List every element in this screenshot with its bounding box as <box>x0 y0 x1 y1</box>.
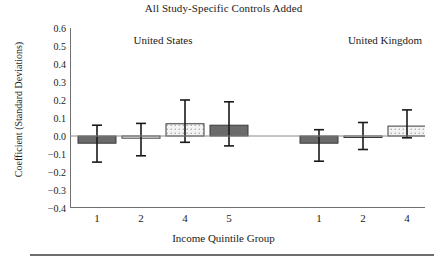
y-axis-label: Coefficient (Standard Deviations) <box>13 30 24 190</box>
chart-svg <box>70 28 425 208</box>
y-tick-label: −0.4 <box>48 203 66 214</box>
y-tick-label: −0.3 <box>48 185 66 196</box>
y-tick-label: −0.2 <box>48 167 66 178</box>
x-tick-label: 2 <box>360 212 366 224</box>
y-tick-label: 0.1 <box>54 113 67 124</box>
error-bar <box>136 123 146 155</box>
error-bar <box>314 130 324 162</box>
y-tick-label: 0.4 <box>54 59 67 70</box>
chart-title: All Study-Specific Controls Added <box>0 2 447 14</box>
x-tick-label: 5 <box>226 212 232 224</box>
x-tick-label: 1 <box>94 212 100 224</box>
plot-area <box>70 28 425 208</box>
x-tick-label: 4 <box>182 212 188 224</box>
group-label-united-kingdom: United Kingdom <box>348 34 422 46</box>
group-label-united-states: United States <box>134 34 193 46</box>
y-tick-label: −0.1 <box>48 149 66 160</box>
x-axis-label: Income Quintile Group <box>0 232 447 244</box>
y-tick-label: 0.5 <box>54 41 67 52</box>
y-tick-label: 0.3 <box>54 77 67 88</box>
x-tick-label: 1 <box>316 212 322 224</box>
y-tick-label: 0.0 <box>54 131 67 142</box>
y-axis-tick-labels: 0.60.50.40.30.20.10.0−0.1−0.2−0.3−0.4 <box>30 28 66 208</box>
x-tick-label: 4 <box>404 212 410 224</box>
axis-lines <box>70 28 425 208</box>
error-bar <box>224 102 234 146</box>
bottom-divider <box>30 254 434 256</box>
x-tick-label: 2 <box>138 212 144 224</box>
y-tick-label: 0.2 <box>54 95 67 106</box>
y-tick-label: 0.6 <box>54 23 67 34</box>
bar-series <box>78 100 425 162</box>
figure: All Study-Specific Controls Added Coeffi… <box>0 0 447 262</box>
